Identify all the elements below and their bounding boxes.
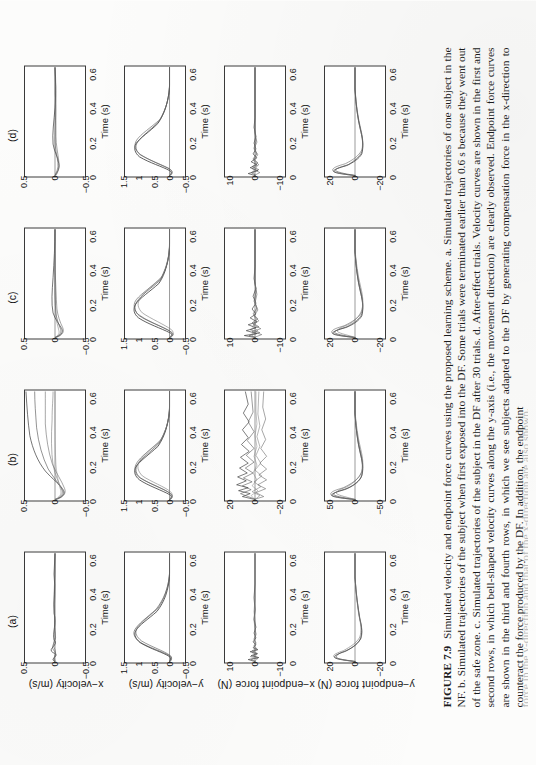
- plot-area: [224, 227, 286, 339]
- ytick: 0: [250, 661, 260, 695]
- figure-7-9: x−velocity (m/s) y−velocity (m/s) x−endp…: [22, 47, 422, 707]
- xtick: 0: [188, 490, 198, 512]
- x-axis-label: Time (s): [299, 227, 310, 339]
- panel-letter-d: (d): [6, 59, 18, 211]
- ytick: 0.5: [19, 175, 29, 209]
- panel-a-x-endpoint-force: 10 0 −10 0 0.2 0.4 0.6 Time (s): [222, 545, 314, 697]
- xtick: 0.6: [188, 549, 198, 571]
- ytick: −20: [375, 337, 385, 371]
- xtick: 0.4: [188, 259, 198, 281]
- x-axis-label: Time (s): [199, 227, 210, 339]
- xtick: 0: [88, 652, 98, 674]
- xtick: 0.6: [388, 549, 398, 571]
- ytick: 20: [225, 499, 235, 533]
- xtick: 0: [188, 166, 198, 188]
- panel-b-y-velocity: 1.5 1 0.5 0 −0.5 0 0.2 0.4 0.6 Time (s): [122, 383, 214, 535]
- xtick: 0.2: [388, 456, 398, 478]
- ytick: 0: [350, 661, 360, 695]
- xtick: 0: [288, 166, 298, 188]
- plot-area: [124, 551, 186, 663]
- plot-area: [24, 65, 86, 177]
- ytick: 0.5: [19, 661, 29, 695]
- panel-d-y-endpoint-force: 20 0 −20 0 0.2 0.4 0.6 Time (s): [322, 59, 414, 211]
- figure-caption-number: FIGURE 7.9: [441, 645, 453, 707]
- xtick: 0: [288, 490, 298, 512]
- x-axis-label: Time (s): [99, 551, 110, 663]
- ytick: 0.5: [150, 661, 160, 695]
- x-axis-label: Time (s): [199, 551, 210, 663]
- x-axis-label: Time (s): [199, 389, 210, 501]
- ytick: 10: [225, 661, 235, 695]
- ytick: 0: [250, 337, 260, 371]
- xtick: 0.2: [88, 456, 98, 478]
- ytick: 0: [165, 499, 175, 533]
- ytick: 0.5: [150, 175, 160, 209]
- x-axis-label: Time (s): [199, 65, 210, 177]
- xtick: 0: [188, 328, 198, 350]
- xtick: 0: [288, 652, 298, 674]
- xtick: 0.4: [388, 97, 398, 119]
- xtick: 0.6: [188, 63, 198, 85]
- plot-area: [124, 389, 186, 501]
- panel-c-x-endpoint-force: 10 0 −10 0 0.2 0.4 0.6 Time (s): [222, 221, 314, 373]
- panel-c-y-velocity: 1.5 1 0.5 0 −0.5 0 0.2 0.4 0.6 Time (s): [122, 221, 214, 373]
- xtick: 0: [388, 490, 398, 512]
- plot-area: [124, 227, 186, 339]
- panel-a-y-velocity: 1.5 1 0.5 0 −0.5 0 0.2 0.4 0.6 Time (s): [122, 545, 214, 697]
- xtick: 0.4: [288, 259, 298, 281]
- xtick: 0.6: [388, 225, 398, 247]
- xtick: 0.2: [188, 132, 198, 154]
- ytick: 1.5: [119, 499, 129, 533]
- xtick: 0.4: [88, 583, 98, 605]
- xtick: 0.4: [188, 421, 198, 443]
- ytick: 1: [134, 499, 144, 533]
- ytick: 0: [50, 337, 60, 371]
- figure-column-a: (a) 0.5 0 −0.5 0 0.2 0.4 0.6: [22, 545, 422, 697]
- plot-area: [224, 551, 286, 663]
- x-axis-label: Time (s): [99, 65, 110, 177]
- ytick: −20: [275, 499, 285, 533]
- xtick: 0: [388, 652, 398, 674]
- ytick: −20: [375, 175, 385, 209]
- ytick: 0: [165, 661, 175, 695]
- xtick: 0.2: [388, 618, 398, 640]
- xtick: 0: [88, 328, 98, 350]
- xtick: 0: [88, 166, 98, 188]
- xtick: 0.6: [288, 549, 298, 571]
- ytick: −10: [275, 337, 285, 371]
- xtick: 0.4: [88, 259, 98, 281]
- xtick: 0.4: [188, 583, 198, 605]
- panel-b-x-endpoint-force: 20 0 −20 0 0.2 0.4 0.6 Time (s): [222, 383, 314, 535]
- ytick: 0: [350, 499, 360, 533]
- ytick: 0.5: [150, 337, 160, 371]
- ytick: 0: [250, 175, 260, 209]
- ytick: 0: [250, 499, 260, 533]
- plot-area: [324, 227, 386, 339]
- book-page: x−velocity (m/s) y−velocity (m/s) x−endp…: [0, 0, 536, 765]
- xtick: 0.4: [88, 97, 98, 119]
- xtick: 0.2: [188, 618, 198, 640]
- ytick: −10: [275, 175, 285, 209]
- xtick: 0.4: [388, 583, 398, 605]
- xtick: 0.2: [288, 132, 298, 154]
- ytick: 0: [350, 337, 360, 371]
- panel-a-x-velocity: 0.5 0 −0.5 0 0.2 0.4 0.6 Time (s): [22, 545, 114, 697]
- ytick: 10: [225, 175, 235, 209]
- ytick: 0: [50, 661, 60, 695]
- xtick: 0.2: [88, 618, 98, 640]
- panel-d-x-endpoint-force: 10 0 −10 0 0.2 0.4 0.6 Time (s): [222, 59, 314, 211]
- figure-caption-text: Simulated velocity and endpoint force cu…: [441, 47, 525, 707]
- xtick: 0.2: [88, 294, 98, 316]
- xtick: 0.6: [88, 549, 98, 571]
- xtick: 0.4: [288, 97, 298, 119]
- ytick: 20: [325, 661, 335, 695]
- ytick: 1.5: [119, 175, 129, 209]
- ytick: 0.5: [150, 499, 160, 533]
- x-axis-label: Time (s): [399, 389, 410, 501]
- xtick: 0.6: [388, 63, 398, 85]
- ytick: 50: [325, 499, 335, 533]
- x-axis-label: Time (s): [399, 65, 410, 177]
- x-axis-label: Time (s): [299, 551, 310, 663]
- xtick: 0: [288, 328, 298, 350]
- panel-b-x-velocity: 0.5 0 −0.5 0 0.2 0.4 0.6 Time (s): [22, 383, 114, 535]
